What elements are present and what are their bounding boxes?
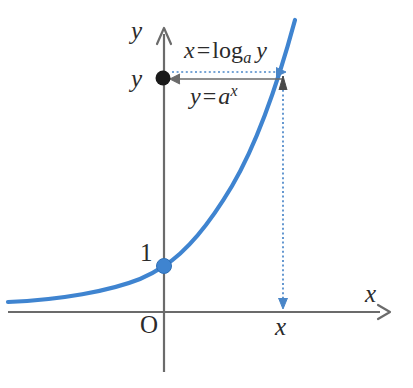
y-tick-label-one: 1: [140, 240, 153, 265]
equation-logarithm: x = loga y: [184, 38, 267, 66]
y-axis-label: y: [131, 18, 142, 43]
origin-label: O: [140, 312, 158, 337]
equation-exponential-base: a: [218, 83, 230, 109]
arrow-logarithm-right: [172, 68, 286, 77]
equation-exponential-lhs: y: [190, 83, 201, 109]
x-axis: [8, 305, 390, 319]
dropline-x-value: [279, 76, 288, 309]
point-y-value: [156, 71, 171, 86]
y-value-label: y: [131, 66, 142, 91]
arrowhead-point-on-curve: [279, 76, 287, 90]
equation-logarithm-func: log: [212, 37, 243, 63]
point-y-intercept: [157, 259, 172, 274]
equation-logarithm-equals: =: [197, 37, 211, 63]
equation-logarithm-lhs: x: [184, 37, 195, 63]
equation-exponential: y = ax: [190, 83, 238, 108]
x-axis-label: x: [365, 281, 376, 306]
equation-exponential-exponent: x: [230, 82, 237, 99]
x-value-label: x: [275, 314, 286, 339]
equation-exponential-equals: =: [203, 83, 217, 109]
equation-logarithm-arg: y: [256, 37, 267, 63]
